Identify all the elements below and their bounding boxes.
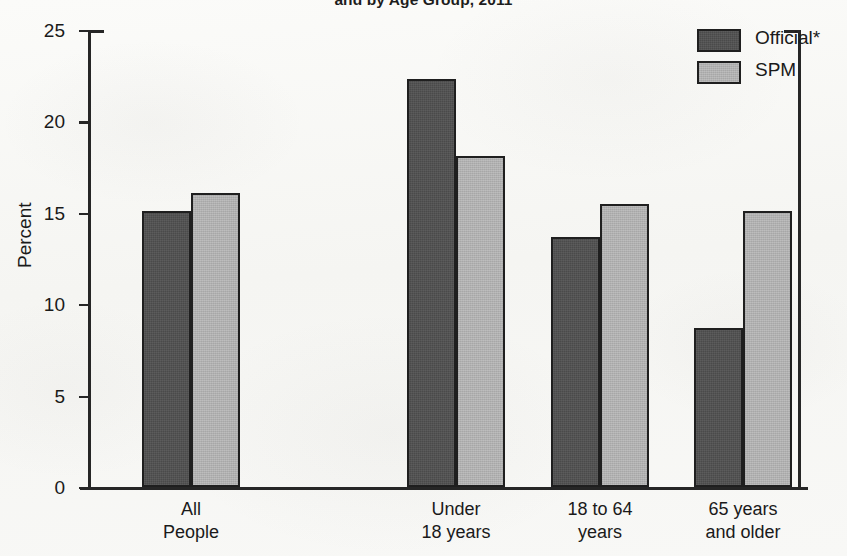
- x-axis-spine: [80, 487, 808, 490]
- y-axis-tick: 0: [79, 487, 89, 489]
- x-axis-category-label: 18 to 64years: [567, 498, 632, 544]
- right-axis-spine: [798, 30, 801, 489]
- y-axis-tick: 20: [79, 121, 89, 123]
- y-axis-title: Percent: [14, 203, 36, 268]
- y-axis-tick: 25: [79, 30, 89, 32]
- bar-official: [694, 328, 743, 487]
- x-axis-category-line: years: [567, 521, 632, 544]
- y-axis-tick-label: 0: [54, 477, 65, 499]
- x-axis-category-line: All: [163, 498, 219, 521]
- bar-spm: [191, 193, 240, 487]
- x-axis-category-line: 18 to 64: [567, 498, 632, 521]
- bar-spm: [600, 204, 649, 487]
- chart-legend: Official*SPM: [697, 27, 847, 91]
- legend-item: SPM: [697, 59, 847, 91]
- bar-spm: [456, 156, 505, 487]
- y-axis-tick: 15: [79, 213, 89, 215]
- chart-page: and by Age Group, 2011 Percent 051015202…: [0, 0, 847, 556]
- chart-title: and by Age Group, 2011: [0, 0, 847, 9]
- x-axis-category-label: AllPeople: [163, 498, 219, 544]
- bar-spm: [743, 211, 792, 487]
- x-axis-category-line: 18 years: [421, 521, 490, 544]
- x-axis-category-label: 65 yearsand older: [705, 498, 780, 544]
- y-axis-tick-label: 15: [44, 203, 65, 225]
- legend-swatch-spm: [697, 61, 741, 84]
- y-axis-tick: 10: [79, 304, 89, 306]
- x-axis-category-line: People: [163, 521, 219, 544]
- y-axis-spine: [88, 30, 91, 489]
- legend-swatch-official: [697, 29, 741, 52]
- x-axis-category-line: 65 years: [705, 498, 780, 521]
- x-axis-category-label: Under18 years: [421, 498, 490, 544]
- bar-official: [407, 79, 456, 487]
- legend-label: Official*: [755, 27, 820, 49]
- y-axis-tick-label: 20: [44, 111, 65, 133]
- legend-item: Official*: [697, 27, 847, 59]
- legend-label: SPM: [755, 59, 796, 81]
- top-left-axis-nub: [88, 30, 104, 33]
- y-axis-tick: 5: [79, 396, 89, 398]
- y-axis-tick-label: 5: [54, 386, 65, 408]
- bar-official: [551, 237, 600, 487]
- plot-area: 0510152025: [88, 30, 800, 488]
- y-axis-tick-label: 10: [44, 294, 65, 316]
- y-axis-tick-label: 25: [44, 20, 65, 42]
- bar-official: [142, 211, 191, 487]
- x-axis-category-line: Under: [421, 498, 490, 521]
- x-axis-category-line: and older: [705, 521, 780, 544]
